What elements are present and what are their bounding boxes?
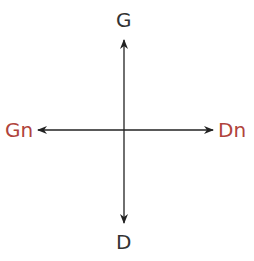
label-top: G — [116, 10, 132, 30]
label-right: Dn — [218, 120, 246, 140]
label-left: Gn — [5, 120, 33, 140]
label-bottom: D — [116, 232, 131, 252]
axes-diagram — [0, 0, 254, 261]
